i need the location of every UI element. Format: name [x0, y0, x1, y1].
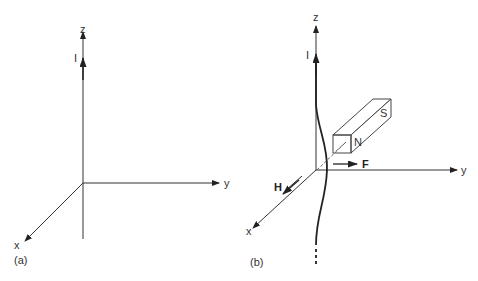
current-label-a: I: [74, 52, 77, 64]
y-label-b: y: [461, 164, 467, 176]
magnet-north-label: N: [354, 136, 362, 148]
z-label-b: z: [313, 11, 319, 23]
bar-magnet: N S: [333, 99, 391, 153]
caption-b: (b): [250, 256, 263, 268]
caption-a: (a): [14, 254, 27, 266]
x-axis-b: [253, 170, 316, 228]
force-label: F: [362, 158, 369, 170]
field-label: H: [274, 181, 282, 193]
y-label-a: y: [224, 177, 230, 189]
field-arrow: [283, 180, 299, 194]
z-label-a: z: [80, 23, 86, 35]
x-label-b: x: [246, 225, 252, 237]
panel-b: N S F H z I y x (b): [246, 11, 467, 268]
panel-a: z I y x (a): [14, 23, 230, 266]
magnet-inner-dash: [335, 142, 346, 152]
figure-canvas: z I y x (a) N S F: [0, 0, 478, 281]
current-label-b: I: [306, 49, 309, 61]
x-axis-a: [25, 183, 83, 241]
magnet-front-face: [333, 135, 351, 153]
field-arrow-line: [285, 176, 302, 191]
x-label-a: x: [14, 239, 20, 251]
magnet-south-label: S: [380, 107, 387, 119]
deflected-wire: [316, 60, 327, 245]
